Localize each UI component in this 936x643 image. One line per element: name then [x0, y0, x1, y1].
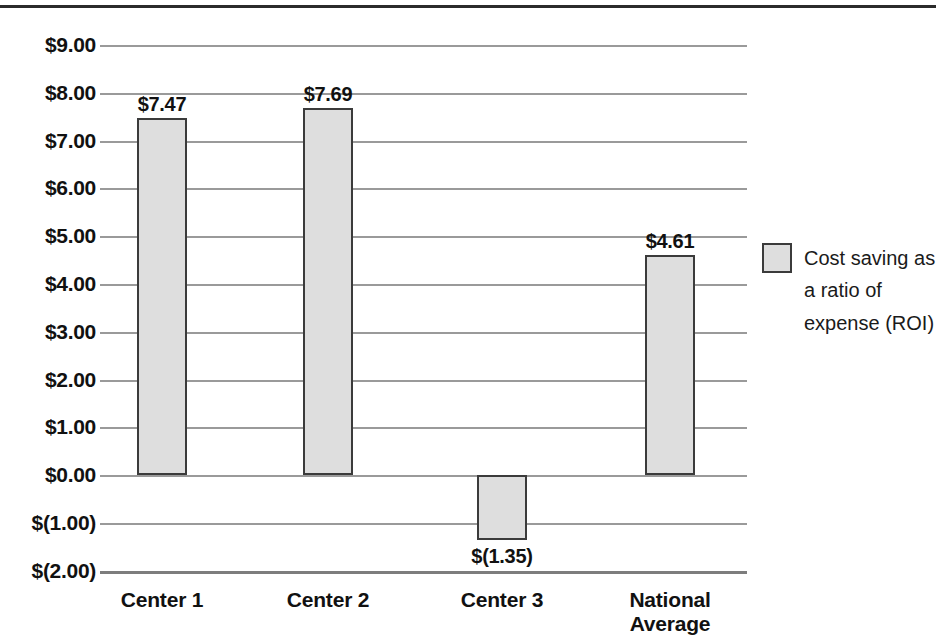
bar-center-2[interactable]: [303, 108, 353, 475]
x-category-label-center-1: Center 1: [92, 588, 232, 612]
y-tick-label-6: $6.00: [4, 177, 96, 198]
gridline-zero: [100, 475, 747, 477]
bar-value-label-center-2: $7.69: [278, 84, 378, 104]
y-tick-label-5: $5.00: [4, 225, 96, 246]
x-category-label-center-2: Center 2: [258, 588, 398, 612]
legend-label: Cost saving as a ratio of expense (ROI): [804, 242, 936, 339]
gridline-9: [100, 45, 747, 47]
y-tick-label-3: $3.00: [4, 321, 96, 342]
x-category-label-center-3: Center 3: [432, 588, 572, 612]
gridline-neg-1: [100, 523, 747, 525]
y-tick-label-4: $4.00: [4, 273, 96, 294]
y-tick-label-0: $0.00: [4, 464, 96, 485]
bar-chart: $9.00 $8.00 $7.00 $6.00 $5.00 $4.00 $3.0…: [0, 0, 936, 643]
y-tick-label-neg2: $(2.00): [4, 560, 96, 581]
bar-center-3[interactable]: [477, 475, 527, 540]
bar-national-average[interactable]: [645, 255, 695, 475]
gridline-6: [100, 188, 747, 190]
legend-swatch-icon: [762, 243, 792, 273]
y-tick-label-2: $2.00: [4, 369, 96, 390]
bar-value-label-national-average: $4.61: [620, 231, 720, 251]
y-tick-label-1: $1.00: [4, 416, 96, 437]
y-tick-label-8: $8.00: [4, 82, 96, 103]
y-tick-label-7: $7.00: [4, 130, 96, 151]
y-tick-label-9: $9.00: [4, 34, 96, 55]
bar-value-label-center-1: $7.47: [112, 94, 212, 114]
y-tick-label-neg1: $(1.00): [4, 512, 96, 533]
bar-center-1[interactable]: [137, 118, 187, 475]
gridline-7: [100, 141, 747, 143]
x-category-label-national-average: National Average: [600, 588, 740, 635]
bar-value-label-center-3: $(1.35): [452, 546, 552, 566]
axis-line-bottom: [100, 571, 747, 574]
